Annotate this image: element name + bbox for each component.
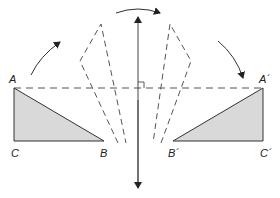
label-a: A	[9, 74, 16, 85]
curved-arrow-left	[31, 42, 60, 75]
label-b: B	[100, 148, 107, 159]
label-c: C	[11, 148, 19, 159]
intermediate-dashed-shape-left	[80, 24, 126, 143]
triangle-abc	[14, 88, 104, 141]
label-c-prime: C´	[260, 148, 272, 159]
curved-arrow-top	[116, 9, 160, 13]
label-a-prime: A´	[259, 74, 270, 85]
reflection-diagram	[0, 0, 280, 198]
right-angle-marker	[138, 82, 144, 88]
label-b-prime: B´	[168, 148, 179, 159]
curved-arrow-right	[218, 41, 243, 78]
intermediate-dashed-shape-right	[153, 24, 191, 143]
triangle-a-prime-b-prime-c-prime	[173, 88, 263, 141]
